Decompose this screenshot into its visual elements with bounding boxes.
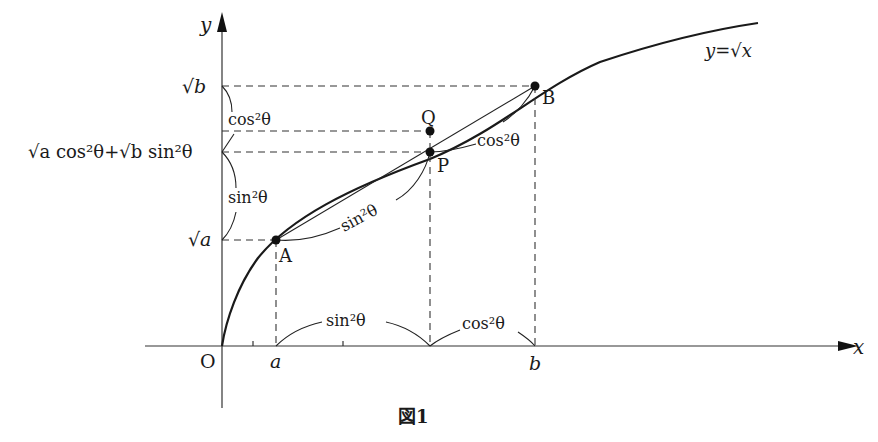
point-P-label: P [437, 155, 449, 176]
y-tick-mid-label: √a cos²θ+√b sin²θ [28, 141, 193, 162]
brace-x-right-b [518, 332, 535, 346]
point-B-label: B [542, 87, 555, 108]
y-tick-sqrt-a-label: √a [188, 228, 211, 250]
point-A-label: A [278, 245, 293, 266]
brace-x-left-b [386, 322, 430, 346]
brace-y-lower-label: sin²θ [228, 188, 268, 207]
sqrt-concavity-diagram: y x O a b √b √a √a cos²θ+√b sin²θ A P Q … [0, 0, 878, 442]
brace-y-lower-b [222, 212, 236, 240]
brace-x-right-label: cos²θ [462, 314, 505, 333]
y-axis-arrow-icon [217, 12, 227, 32]
point-Q-label: Q [421, 107, 436, 128]
brace-y-upper-b [222, 134, 234, 152]
point-P [426, 148, 435, 157]
brace-y-upper-label: cos²θ [228, 110, 271, 129]
axes [145, 12, 858, 408]
point-A [272, 236, 281, 245]
figure-caption: 図1 [398, 406, 429, 427]
chord-AB [276, 86, 535, 240]
brace-y-lower [222, 152, 236, 188]
brace-AP-b [396, 152, 430, 200]
brace-AP-label: sin²θ [337, 200, 381, 235]
curve-label: y=√x [704, 40, 752, 61]
y-tick-sqrt-b-label: √b [182, 75, 206, 97]
brace-x-left-a [276, 322, 322, 346]
brace-x-right-a [430, 330, 460, 346]
y-axis-label: y [199, 13, 212, 37]
brace-y-upper [222, 86, 232, 112]
brace-PB-label: cos²θ [477, 131, 520, 150]
sqrt-curve [222, 23, 758, 346]
point-B [531, 82, 540, 91]
x-tick-b-label: b [529, 352, 541, 374]
x-axis-label: x [853, 335, 864, 359]
brace-x-left-label: sin²θ [326, 311, 366, 330]
origin-label: O [200, 350, 216, 372]
x-tick-a-label: a [270, 350, 281, 372]
